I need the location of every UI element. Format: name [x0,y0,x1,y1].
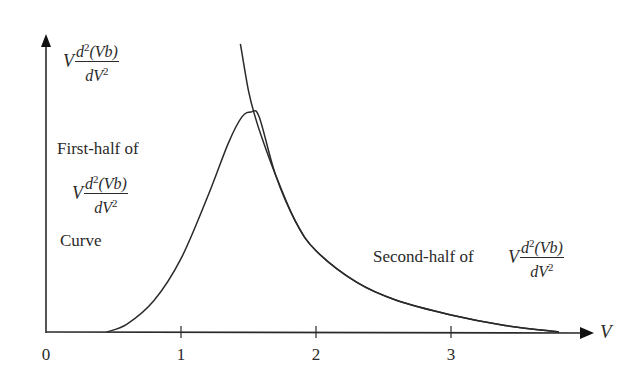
x-tick-label-3: 3 [447,345,456,365]
fh-num-rest: (Vb) [99,175,127,192]
sh-numerator: d2(Vb) [520,234,564,258]
x-axis-arrow-icon [580,327,594,339]
y-label-prefix: V [63,51,74,72]
y-label-numerator: d2(Vb) [75,38,119,62]
y-label-fraction: d2(Vb) dV2 [75,38,119,86]
fh-den-dv: dV [94,200,112,217]
fh-prefix: V [72,183,83,204]
fh-fraction: d2(Vb) dV2 [84,170,128,218]
x-axis [46,332,582,333]
first-half-line1: First-half of [57,139,139,159]
sh-den-sup: 2 [548,261,554,273]
x-tick-label-1: 1 [177,345,186,365]
y-label-denominator: dV2 [85,62,108,85]
num-rest: (Vb) [90,43,118,60]
sh-num-rest: (Vb) [535,239,563,256]
sh-den-dv: dV [530,264,548,281]
sh-num-d: d [521,239,529,256]
sh-fraction: d2(Vb) dV2 [520,234,564,282]
y-axis-label: V d2(Vb) dV2 [63,38,119,86]
sh-denominator: dV2 [530,258,553,281]
asymptotic-tail-curve [240,44,559,332]
x-tick-label-0: 0 [42,345,51,365]
fh-denominator: dV2 [94,194,117,217]
first-half-line3: Curve [60,231,102,251]
peaked-curve [107,111,559,332]
y-axis-arrow-icon [41,34,51,47]
fh-num-d: d [85,175,93,192]
sh-prefix: V [508,247,519,268]
den-dv: dV [85,68,103,85]
num-d: d [76,43,84,60]
x-tick-label-2: 2 [312,345,321,365]
second-half-formula: V d2(Vb) dV2 [508,234,564,282]
x-axis-label: V [600,321,612,343]
first-half-formula: V d2(Vb) dV2 [72,170,128,218]
second-half-text: Second-half of [373,247,474,267]
den-sup: 2 [103,65,109,77]
fh-den-sup: 2 [112,197,118,209]
fh-numerator: d2(Vb) [84,170,128,194]
